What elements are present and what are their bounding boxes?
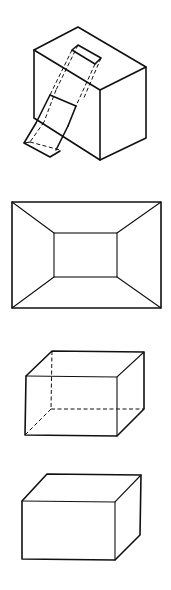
figure-3-box-hidden-edges (25, 351, 144, 436)
figure-1-cube-with-prism (24, 27, 146, 160)
figure-4-solid-box (22, 474, 141, 560)
prism-exposed-edges (24, 95, 60, 157)
inner-rectangle (54, 233, 117, 277)
hidden-edge (25, 409, 51, 435)
prism-hidden-edge (83, 58, 101, 100)
diagonal (117, 277, 161, 308)
hidden-edge (51, 351, 52, 409)
prism-hidden-edge (50, 50, 72, 95)
diagram-canvas (0, 0, 171, 590)
prism-hidden-edge (30, 122, 44, 142)
prism-front-edge (68, 106, 76, 126)
box-front-top-edges (22, 475, 141, 502)
box-outline (22, 474, 141, 560)
diagonal (12, 277, 54, 308)
figure-2-frustum (12, 202, 161, 308)
diagonal (117, 202, 161, 233)
diagonal (12, 202, 54, 233)
box-front-top-edges (26, 352, 144, 377)
box-outline (25, 351, 144, 436)
prism-hidden-edge (56, 45, 78, 90)
